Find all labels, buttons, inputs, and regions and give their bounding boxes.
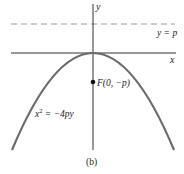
x-axis-label: x — [169, 54, 175, 65]
y-axis-label: y — [95, 1, 101, 12]
focus-label: F(0, −p) — [96, 78, 130, 89]
figure-caption: (b) — [86, 157, 97, 168]
directrix-label: y = p — [156, 28, 177, 38]
equation-label: x2 = −4py — [34, 107, 75, 119]
focus-point — [91, 80, 96, 85]
parabola-diagram: y y = p x F(0, −p) x2 = −4py (b) — [0, 0, 184, 174]
